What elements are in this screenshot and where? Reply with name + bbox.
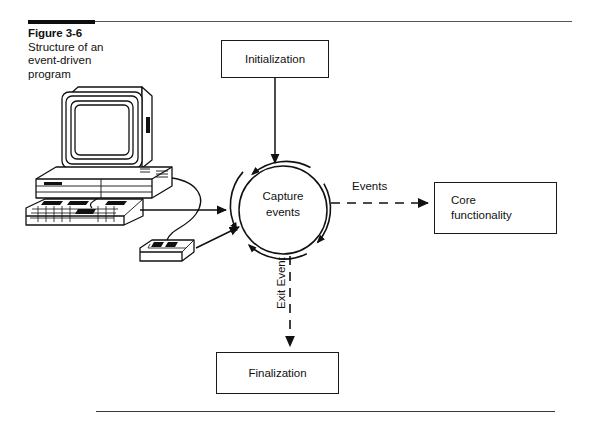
- crt-monitor-icon: [62, 87, 152, 174]
- mouse-icon: [140, 240, 194, 261]
- edge-label-events: Events: [352, 180, 387, 192]
- node-capture-events-label: Capture events: [248, 188, 318, 220]
- edge-label-exit-event: Exit Event: [275, 254, 287, 312]
- node-initialization-label: Initialization: [245, 52, 305, 67]
- node-core-functionality[interactable]: Core functionality: [434, 182, 557, 234]
- node-finalization-label: Finalization: [248, 366, 306, 381]
- node-finalization[interactable]: Finalization: [216, 352, 339, 394]
- figure-container: Figure 3-6 Structure of an event-driven …: [0, 0, 592, 430]
- edge-mouse-to-capture: [196, 227, 239, 248]
- node-core-functionality-label: Core functionality: [451, 193, 512, 223]
- node-initialization[interactable]: Initialization: [221, 40, 329, 78]
- desktop-computer-illustration: [26, 87, 201, 261]
- mouse-cable: [167, 178, 201, 240]
- system-unit-icon: [36, 167, 172, 198]
- keyboard-icon: [26, 198, 143, 225]
